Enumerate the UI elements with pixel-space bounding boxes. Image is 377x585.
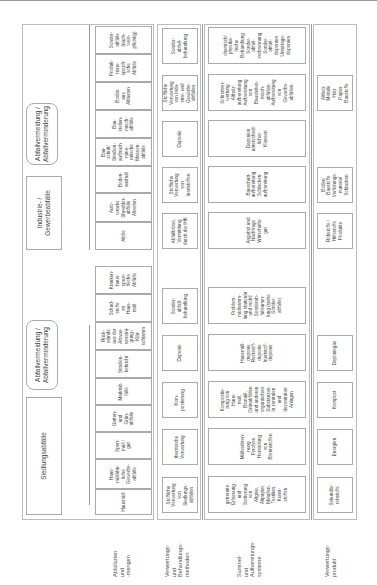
waste-type-krankenhausabfaelle: Kranken- haus- spezi- fische Abfälle bbox=[95, 266, 152, 294]
system-problemmuellsammlung: Problem- müllsamm- lung stationär und mo… bbox=[208, 287, 306, 324]
product-sekundaerrohstoffe: Sekundär- rohstoffe bbox=[317, 477, 353, 513]
method-deponie-siedlung: Deponie bbox=[162, 335, 198, 371]
method-abfallboerse: Abfallbörse, Vermittlung durch die IHK bbox=[162, 213, 198, 249]
product-boden-baustoffe: Boden Baustoffe Verfüllungs- material Sc… bbox=[317, 167, 353, 203]
system-bauschuttaufbereitung: Bauschutt- aufbereitung Schlacken- aufbe… bbox=[208, 166, 306, 203]
product-rohstoffe: Rohstoffe / Hilfsstoffe Produkte bbox=[317, 213, 353, 249]
waste-type-marktabfaelle: Marktab- fälle bbox=[95, 378, 152, 405]
waste-type-sonderabfaelle: Sonder- abfälle (nach- weis- pflichtig) bbox=[95, 26, 152, 54]
waste-type-hausmuell: Hausmüll bbox=[95, 489, 152, 515]
system-chemisch-physikalisch: chemisch/ physika- lische Behandlung Son… bbox=[208, 27, 306, 64]
system-deponien-klassen: Deponien unterschied- licher Klassen bbox=[208, 120, 306, 157]
waste-type-autowracks: Auto- wracks Shredder- abfälle Altreifen bbox=[95, 193, 152, 222]
method-kompostierung: Kom- postierung bbox=[162, 382, 198, 418]
row-label-produkt: Verwertungs- produkt bbox=[324, 545, 337, 577]
method-sonderabfallbehandlung-siedlung: Sonder- abfall- behandlung bbox=[162, 288, 198, 324]
row-label-systeme: Sammel- und Aufbereitungs- systeme bbox=[236, 541, 262, 577]
connector bbox=[89, 325, 90, 505]
waste-type-schadstoffe: Schad- stoffe im Haus- müll bbox=[95, 294, 152, 322]
method-stoffliche-verwertung-inertstoffe: Stoffliche Verwertung von Inertstoffen bbox=[162, 167, 198, 203]
waste-type-altoele: Altöle bbox=[95, 222, 152, 250]
product-kompost: Kompost bbox=[317, 382, 353, 418]
waste-type-strassenkehricht: Straßen- kehricht bbox=[95, 350, 152, 378]
row-label-abfallarten: Abfallarten und -mengen bbox=[112, 551, 132, 577]
waste-type-boden-altlasten: Boden aus Altlasten bbox=[95, 82, 152, 110]
waste-type-hausmuellaehnliche: Haus- müllähn- liche Gewerbe- abfälle bbox=[95, 459, 152, 489]
system-deponien: Hausmüll- deponie Reststoff- deponie Ine… bbox=[208, 334, 306, 371]
method-stoffliche-verwertung-industrie: Stoffliche Verwertung von Indu- strie- u… bbox=[162, 75, 198, 111]
spine-line bbox=[202, 24, 203, 520]
source-abfallvermeidung-industrie: Abfallvermeidung / Abfallverminderung bbox=[26, 103, 58, 165]
product-energien: Energien bbox=[317, 429, 353, 465]
waste-type-bodenaushub: Boden- aushub bbox=[95, 166, 152, 193]
system-angebot-nachfrage: Angebot und Nachfrage Wirtschafts- gut bbox=[208, 212, 306, 249]
waste-type-sperrmuell: Sperr- müll / gut bbox=[95, 432, 152, 459]
system-schrottverwertung: Schrottver- wertung Altholz- aufbereitun… bbox=[208, 74, 306, 111]
source-siedlungsabfaelle: Siedlungsabfälle bbox=[26, 397, 62, 515]
waste-type-bauschutt: Bau- schutt/ Straßen- aufbruch mine- ral… bbox=[95, 138, 152, 166]
waste-management-diagram: Siedlungsabfälle Abfallvermeidung / Abfa… bbox=[0, 0, 377, 585]
connector bbox=[89, 25, 90, 250]
method-thermische-verwertung: thermische Verwertung bbox=[162, 429, 198, 465]
system-getrennte-erfassung: getrennte Erfassung und Sortierung von A… bbox=[208, 476, 306, 513]
waste-type-klaerschlamm: Rück- stände aus der Abwas- serreini- gu… bbox=[95, 322, 152, 350]
method-sonderabfallbehandlung-industrie: Sonder- abfall- behandlung bbox=[162, 28, 198, 64]
source-abfallvermeidung-siedlung: Abfallvermeidung / Abfallverminderung bbox=[26, 320, 58, 390]
method-deponie-industrie: Deponie bbox=[162, 121, 198, 157]
waste-type-baustellenmischabfaelle: Bau- stellen- misch- abfälle bbox=[95, 110, 152, 138]
product-deponiegas: Deponiegas bbox=[317, 335, 353, 371]
waste-type-produktionsabfaelle: Produk- tions- spezifi- sche Abfälle bbox=[95, 54, 152, 82]
row-label-methoden: Verwertungs- und Behandlungs- methoden bbox=[164, 543, 190, 577]
method-stoffliche-verwertung-siedlung: Stoffliche Verwertung von Siedlungs- abf… bbox=[162, 477, 198, 513]
product-altholz-metalle: Altholz Metalle Holz Papier Baustoffe bbox=[317, 75, 353, 111]
waste-type-gartenabfaelle: Garten- und Grün- abfälle bbox=[95, 405, 152, 432]
system-muellverbrennung: Müllverbren- nung Pyrolyse Herstellung v… bbox=[208, 428, 306, 465]
system-kompostierung: Kompostie- rung von Haus- müll, Biomüll,… bbox=[208, 381, 306, 418]
spine-line bbox=[311, 24, 312, 520]
source-industrie-gewerbeabfaelle: Industrie- / Gewerbeabfälle bbox=[26, 176, 62, 250]
